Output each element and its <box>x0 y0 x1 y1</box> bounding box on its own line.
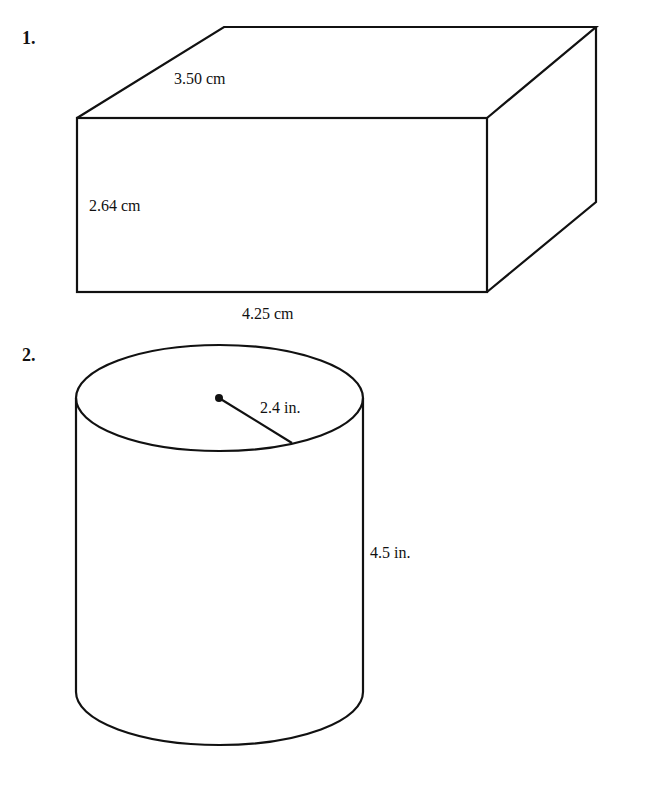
cylinder <box>76 345 363 745</box>
problem-2: 2. 2.4 in. 4.5 in. <box>22 345 410 745</box>
figure-canvas: 1. 3.50 cm 2.64 cm 4.25 cm 2. 2.4 in. 4.… <box>0 0 660 792</box>
depth-label: 3.50 cm <box>174 70 226 87</box>
problem-1-number: 1. <box>22 28 36 48</box>
problem-2-number: 2. <box>22 345 36 365</box>
height-label: 2.64 cm <box>89 197 141 214</box>
cylinder-height-label: 4.5 in. <box>370 544 410 561</box>
prism-right-face <box>487 27 596 292</box>
rectangular-prism <box>77 27 596 292</box>
cylinder-bottom-arc <box>76 692 363 745</box>
problem-1: 1. 3.50 cm 2.64 cm 4.25 cm <box>22 27 596 322</box>
length-label: 4.25 cm <box>242 305 294 322</box>
prism-top-face <box>77 27 596 118</box>
radius-label: 2.4 in. <box>260 399 300 416</box>
